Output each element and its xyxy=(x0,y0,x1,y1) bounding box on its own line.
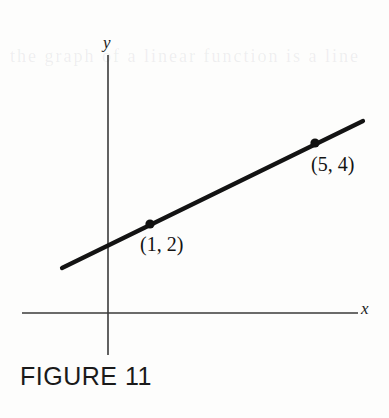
point-label-1-2: (1, 2) xyxy=(140,234,183,254)
data-point-1-2 xyxy=(145,219,154,228)
y-axis-label: y xyxy=(103,34,111,51)
plot-canvas xyxy=(0,0,389,418)
point-label-5-4: (5, 4) xyxy=(311,154,354,174)
data-point-5-4 xyxy=(310,138,319,147)
figure-container: the graph of a linear function is a line… xyxy=(0,0,389,418)
x-axis-label: x xyxy=(361,300,369,317)
figure-caption: FIGURE 11 xyxy=(20,364,152,389)
